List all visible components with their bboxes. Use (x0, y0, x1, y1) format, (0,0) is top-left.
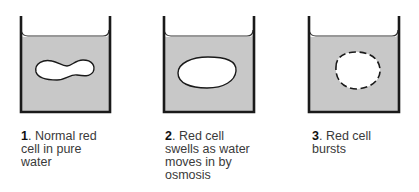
beaker-1 (21, 16, 110, 112)
caption-3-number: 3 (312, 129, 319, 143)
caption-3: 3. Red cell bursts (312, 130, 419, 156)
beaker-3 (309, 16, 399, 112)
beaker-1-meniscus (21, 30, 109, 36)
caption-1: 1. Normal red cell in pure water (21, 130, 131, 169)
cell-swollen (178, 57, 236, 88)
caption-2: 2. Red cell swells as water moves in by … (165, 130, 275, 182)
beaker-2 (164, 16, 254, 112)
beaker-2-meniscus (164, 30, 253, 36)
cell-burst (336, 52, 380, 89)
caption-1-number: 1 (21, 129, 28, 143)
beaker-3-meniscus (309, 30, 398, 36)
caption-2-number: 2 (165, 129, 172, 143)
